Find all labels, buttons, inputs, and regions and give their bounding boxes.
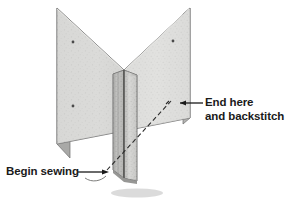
end-here-line-1: End here xyxy=(205,96,284,110)
pin-mark-icon xyxy=(172,40,175,43)
sewing-diagram-figure: End here and backstitch Begin sewing xyxy=(0,0,290,202)
pin-mark-icon xyxy=(72,41,75,44)
seam-allowance-flaps xyxy=(113,70,137,184)
pin-mark-icon xyxy=(72,105,75,108)
drop-shadow xyxy=(111,189,163,198)
begin-sewing-leader-arrow xyxy=(78,169,109,180)
end-here-line-2: and backstitch xyxy=(205,110,284,124)
end-here-label: End here and backstitch xyxy=(205,96,284,123)
arrowhead-icon xyxy=(102,169,109,174)
begin-sewing-label: Begin sewing xyxy=(6,165,79,179)
thread-tail-icon xyxy=(85,176,106,181)
